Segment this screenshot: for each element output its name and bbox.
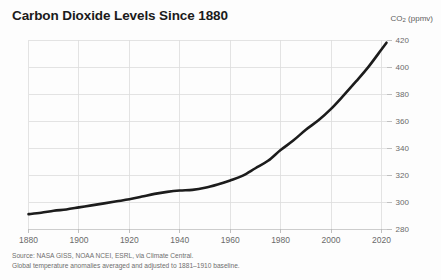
x-tick-label: 1920	[120, 235, 139, 245]
x-axis-tick-labels: 18801900192019401960198020002020	[19, 235, 391, 245]
co2-line-series	[29, 43, 387, 214]
y-tick-label: 300	[396, 198, 410, 207]
source-note: Source: NASA GISS, NOAA NCEI, ESRL, via …	[12, 251, 240, 271]
y-tick-label: 340	[396, 144, 410, 153]
chart-figure: Carbon Dioxide Levels Since 1880 CO2 (pp…	[0, 0, 441, 280]
x-tick-label: 1880	[19, 235, 38, 245]
y-axis-tick-labels: 280300320340360380400420	[396, 36, 410, 234]
y-tick-label: 280	[396, 225, 410, 234]
y-axis-tickmarks	[387, 40, 392, 229]
x-tick-label: 2000	[322, 235, 341, 245]
chart-plot-area: 280300320340360380400420 188019001920194…	[0, 0, 441, 280]
gridlines-vertical	[29, 40, 382, 229]
y-tick-label: 360	[396, 117, 410, 126]
source-note-line-2: Global temperature anomalies averaged an…	[12, 261, 240, 271]
y-tick-label: 420	[396, 36, 410, 45]
x-axis-tickmarks	[29, 229, 382, 233]
source-note-line-1: Source: NASA GISS, NOAA NCEI, ESRL, via …	[12, 251, 240, 261]
x-tick-label: 1980	[271, 235, 290, 245]
x-tick-label: 1940	[170, 235, 189, 245]
gridlines-horizontal	[29, 40, 387, 229]
y-tick-label: 400	[396, 63, 410, 72]
x-tick-label: 1960	[221, 235, 240, 245]
y-tick-label: 380	[396, 90, 410, 99]
x-tick-label: 1900	[69, 235, 88, 245]
x-tick-label: 2020	[372, 235, 391, 245]
y-tick-label: 320	[396, 171, 410, 180]
